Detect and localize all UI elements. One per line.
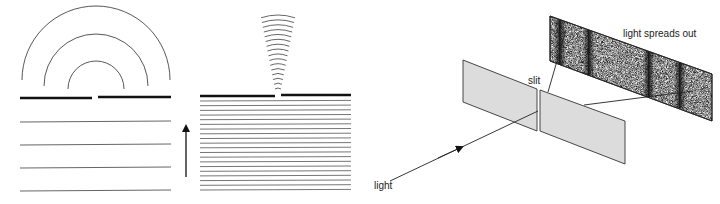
incoming-plane-wavefronts [20, 121, 171, 191]
barrier-with-slit [200, 95, 351, 96]
panel-right-single-slit-3d: slit light light spreads out [374, 16, 712, 191]
diffraction-diagram: slit light light spreads out [0, 0, 720, 204]
label-light-spreads-out: light spreads out [623, 28, 697, 39]
incoming-plane-wavefronts [200, 100, 351, 190]
label-slit: slit [528, 75, 540, 86]
label-light: light [374, 180, 393, 191]
slit-plate-left [463, 60, 537, 131]
panel-middle-narrow-diffraction [186, 15, 351, 190]
outgoing-semicircle-waves [22, 6, 170, 89]
incoming-light-ray [390, 111, 538, 181]
arrow-right-icon [438, 147, 462, 158]
panel-left-wide-diffraction [20, 6, 186, 191]
barrier-with-slit [20, 97, 171, 98]
outgoing-cone-arcs [261, 15, 295, 89]
